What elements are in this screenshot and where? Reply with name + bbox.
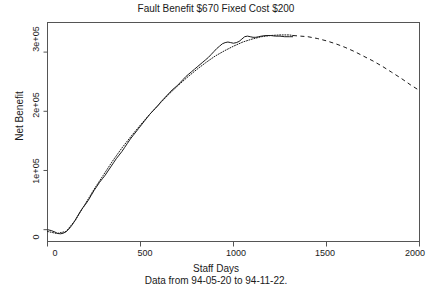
x-axis-tick-marks [48, 242, 420, 247]
series-line-fitted [48, 35, 294, 234]
series-line-observed [48, 36, 294, 234]
plot-area [0, 0, 432, 292]
series-line-projected [293, 36, 418, 90]
plot-frame [48, 23, 420, 242]
chart-figure: Fault Benefit $670 Fixed Cost $200 Net B… [0, 0, 432, 292]
y-axis-tick-marks [44, 52, 48, 230]
